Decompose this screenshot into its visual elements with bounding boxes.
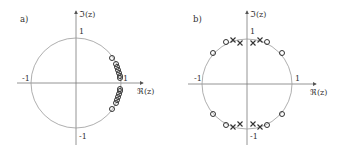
tick-real-pos: 1	[295, 74, 300, 83]
tick-imag-pos: 1	[250, 27, 255, 36]
imag-axis-label: ℑ(z)	[250, 10, 266, 19]
real-axis-label: ℜ(z)	[137, 87, 154, 96]
imag-axis-label: ℑ(z)	[79, 10, 95, 19]
panel-b: b) ℑ(z) ℜ(z) 1 -1 1 -1	[188, 10, 327, 145]
poles-b	[231, 38, 263, 130]
real-axis-label: ℜ(z)	[310, 88, 327, 97]
panel-label-a: a)	[20, 14, 28, 24]
tick-real-pos: 1	[123, 74, 128, 83]
panel-label-b: b)	[193, 14, 202, 24]
tick-real-neg: -1	[22, 74, 30, 83]
zeros-b	[211, 40, 285, 128]
tick-real-neg: -1	[194, 74, 202, 83]
tick-imag-neg: -1	[79, 132, 87, 141]
tick-imag-pos: 1	[79, 27, 84, 36]
pole-zero-figure: a) ℑ(z) ℜ(z) 1 -1 1 -1 b)	[0, 0, 343, 151]
panel-a: a) ℑ(z) ℜ(z) 1 -1 1 -1	[17, 10, 154, 145]
tick-imag-neg: -1	[250, 132, 258, 141]
